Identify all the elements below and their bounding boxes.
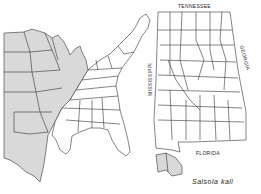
- label-georgia: GEORGIA: [239, 45, 251, 71]
- distribution-map: TENNESSEE GEORGIA MISSISSIPPI FLORIDA Sa…: [0, 0, 261, 194]
- eastern-us-map: [4, 14, 150, 182]
- label-florida: FLORIDA: [196, 150, 220, 156]
- label-tennessee: TENNESSEE: [178, 3, 211, 9]
- shaded-counties: [156, 153, 182, 176]
- label-mississippi: MISSISSIPPI: [147, 63, 153, 96]
- species-name: Salsola kali: [192, 178, 233, 185]
